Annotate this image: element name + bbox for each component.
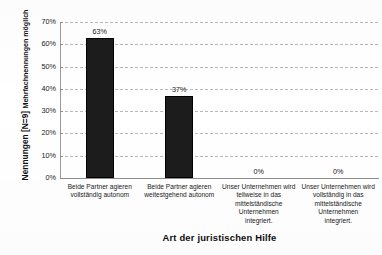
bar-value-label: 63% (70, 28, 130, 36)
y-axis-tick-mark (60, 156, 63, 157)
x-axis-category-line: Unternehmen (301, 208, 377, 216)
x-axis-category-line: Beide Partner agieren (142, 183, 218, 191)
plot-area: 63%37%0%0% (60, 22, 378, 178)
y-axis-tick-mark (60, 22, 63, 23)
bar (86, 38, 114, 178)
x-axis-category-label: Beide Partner agierenweitestgehend auton… (142, 183, 218, 200)
x-axis-category-line: Unternehmen (221, 208, 297, 216)
y-axis-tick-mark (60, 67, 63, 68)
bar-chart: Nennungen [N=9] Mehrfachnennungen möglic… (0, 0, 382, 255)
gridline (60, 22, 378, 23)
y-axis-tick-mark (60, 133, 63, 134)
x-axis-category-line: mittelständische (301, 200, 377, 208)
y-axis-tick-labels: 0%10%20%30%40%50%60%70% (26, 0, 56, 255)
x-axis-category-line: teilweise in das (221, 191, 297, 199)
x-axis-category-label: Unser Unternehmen wirdteilweise in dasmi… (221, 183, 297, 225)
y-axis-tick-mark (60, 89, 63, 90)
x-axis-category-line: integriert. (221, 217, 297, 225)
x-axis-category-line: mittelständische (221, 200, 297, 208)
y-axis-tick-label: 20% (30, 129, 56, 137)
x-axis-category-line: weitestgehend autonom (142, 191, 218, 199)
x-axis-category-line: Unser Unternehmen wird (301, 183, 377, 191)
bar-value-label: 37% (149, 86, 209, 94)
x-axis-category-line: Unser Unternehmen wird (221, 183, 297, 191)
y-axis-tick-label: 0% (30, 174, 56, 182)
x-axis-category-line: vollständig autonom (62, 191, 138, 199)
x-axis-line (60, 178, 379, 179)
y-axis-tick-label: 40% (30, 85, 56, 93)
bar (165, 96, 193, 178)
x-axis-category-line: vollständig in das (301, 191, 377, 199)
y-axis-tick-mark (60, 178, 63, 179)
bar-value-label: 0% (308, 168, 368, 176)
y-axis-tick-label: 30% (30, 107, 56, 115)
x-axis-category-label: Unser Unternehmen wirdvollständig in das… (301, 183, 377, 225)
x-axis-category-line: integriert. (301, 217, 377, 225)
x-axis-category-line: Beide Partner agieren (62, 183, 138, 191)
y-axis-tick-mark (60, 111, 63, 112)
x-axis-title: Art der juristischen Hilfe (60, 232, 379, 243)
y-axis-tick-label: 50% (30, 63, 56, 71)
x-axis-category-label: Beide Partner agierenvollständig autonom (62, 183, 138, 200)
bar-value-label: 0% (229, 168, 289, 176)
y-axis-tick-label: 60% (30, 40, 56, 48)
y-axis-tick-mark (60, 44, 63, 45)
y-axis-tick-label: 10% (30, 152, 56, 160)
y-axis-tick-label: 70% (30, 18, 56, 26)
